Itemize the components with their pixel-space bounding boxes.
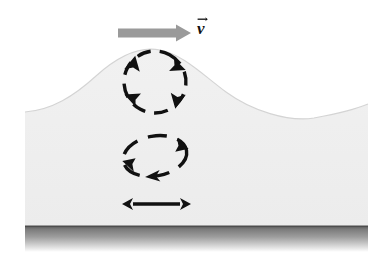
wave-diagram-canvas xyxy=(0,0,382,269)
velocity-symbol: v xyxy=(197,19,205,38)
water-body xyxy=(25,49,368,228)
sea-floor-band xyxy=(25,226,368,253)
velocity-vector-label: v xyxy=(197,20,205,37)
velocity-arrow xyxy=(118,25,191,42)
wave-diagram-figure: v xyxy=(0,0,382,269)
water-fill xyxy=(25,49,368,228)
